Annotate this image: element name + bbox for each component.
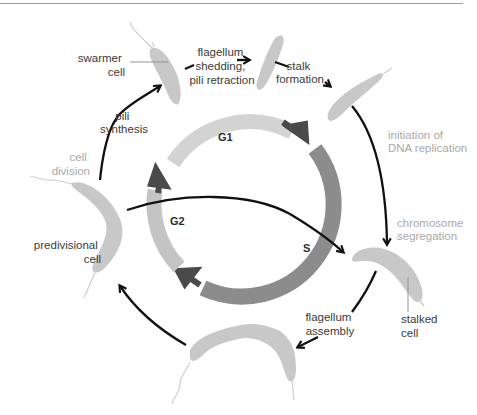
chromosome-segregation-label: chromosome segregation: [397, 217, 467, 242]
swarmer-cell-shape: [130, 22, 181, 104]
division-return-arrow: [120, 286, 186, 345]
g2-to-g1-arrow-icon: [151, 169, 166, 193]
stalk-formation-arrow-head: [325, 82, 330, 86]
phase-g2-label: G2: [170, 215, 185, 227]
phase-s-label: S: [303, 242, 310, 254]
predivisional-cell-shape: [30, 176, 122, 298]
stalked-cell-label: stalked cell: [401, 313, 441, 339]
cell-division-label: cell division: [52, 151, 90, 177]
pili-synthesis-label: pili synthesis: [100, 110, 148, 135]
dna-replication-arrow: [352, 106, 387, 244]
flagellum-assembly-label: flagellum assembly: [305, 311, 354, 337]
shedding-arrow-tail: [185, 65, 194, 69]
caulobacter-cell-cycle-diagram: G1 G2 S: [0, 0, 477, 415]
flagellum-assembly-arrow-head: [298, 337, 318, 347]
stalk-forming-cell-shape: [328, 68, 392, 121]
flagellum-shedding-label: flagellum shedding, pili retraction: [189, 46, 254, 86]
cell-cycle-ring: G1 G2 S: [151, 122, 334, 297]
predivisional-cell-label: predivisional cell: [34, 239, 101, 265]
s-arc: [203, 149, 334, 297]
phase-g1-label: G1: [218, 131, 233, 143]
flagellum-assembly-arrow-tail: [352, 271, 376, 312]
s-to-g2-arrow-icon: [178, 270, 200, 285]
dna-replication-label: initiation of DNA replication: [388, 129, 467, 154]
dividing-cell-shape: [172, 324, 296, 404]
swarmer-cell-label: swarmer cell: [78, 52, 125, 78]
